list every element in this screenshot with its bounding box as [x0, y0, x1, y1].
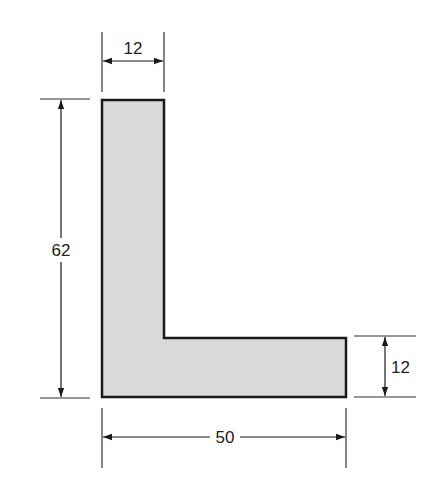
dimension-overall-width: 50 — [102, 408, 346, 468]
dimension-label-flange-thickness: 12 — [391, 358, 410, 377]
dimension-top-width: 12 — [102, 32, 164, 92]
dimension-label-overall-height: 62 — [52, 241, 71, 260]
dimension-label-top-width: 12 — [124, 39, 143, 58]
dimension-flange-thickness: 12 — [354, 336, 416, 397]
dimension-label-overall-width: 50 — [216, 428, 235, 447]
l-shape-section — [102, 100, 346, 397]
dimension-overall-height: 62 — [40, 99, 90, 398]
l-section-diagram: 12 62 12 50 — [0, 0, 441, 492]
